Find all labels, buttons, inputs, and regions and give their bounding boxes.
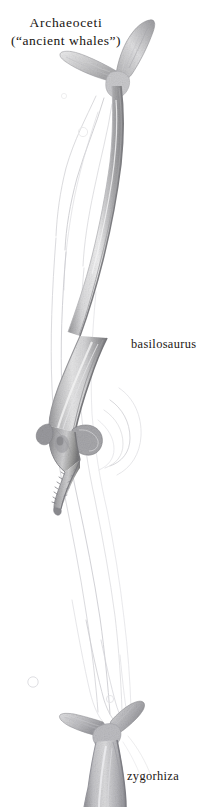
plate-title-line1: Archaeoceti [0, 14, 132, 32]
zygorhiza-peduncle-junction [93, 724, 121, 749]
bubble-icon [28, 677, 38, 687]
basilosaurus-fluke-left-lobe [60, 51, 119, 81]
basilosaurus-teeth [52, 472, 64, 503]
basilosaurus-peduncle-junction [106, 71, 130, 97]
basilosaurus-figure [36, 20, 154, 515]
basilosaurus-rostrum [52, 460, 80, 515]
basilosaurus-jaw-hinge [36, 424, 53, 445]
basilosaurus-trunk [49, 336, 107, 432]
bubble-group [28, 93, 114, 702]
bubble-icon [61, 93, 66, 98]
whale-illustration-artwork [0, 0, 221, 807]
paper-tone-overlay [0, 0, 221, 807]
zygorhiza-fluke-right-lobe [107, 701, 145, 737]
bubble-icon [106, 695, 113, 702]
basilosaurus-skull [49, 426, 80, 472]
plate-title: Archaeoceti (“ancient whales”) [0, 14, 132, 50]
zygorhiza-figure [59, 701, 144, 807]
plate-title-line2: (“ancient whales”) [0, 32, 132, 50]
zygorhiza-body [84, 740, 126, 807]
ghost-outline-group [51, 96, 151, 784]
basilosaurus-tail-stock [68, 86, 123, 336]
label-basilosaurus: basilosaurus [131, 337, 196, 352]
illustration-plate: Archaeoceti (“ancient whales”) basilosau… [0, 0, 221, 807]
basilosaurus-upper-teeth [64, 469, 77, 496]
zygorhiza-fluke-left-lobe [59, 713, 110, 737]
bubble-icon [78, 127, 87, 136]
basilosaurus-flipper [71, 425, 102, 455]
label-zygorhiza: zygorhiza [127, 769, 179, 784]
